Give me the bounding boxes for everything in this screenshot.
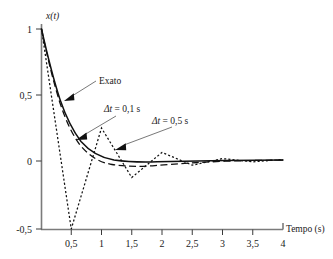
series-dt-0-5-curve xyxy=(42,29,284,229)
dt-0-5-leader-line xyxy=(124,127,172,145)
y-tick-label-0-5: 0,5 xyxy=(20,90,33,101)
dt-0-5-arrowhead xyxy=(115,143,126,150)
x-tick-label-1: 1 xyxy=(99,238,104,249)
chart-figure: 1 0,5 0 -0,5 0,5 1 1,5 2 2,5 3 3,5 4 x(t… xyxy=(0,0,333,259)
x-tick-label-0-5: 0,5 xyxy=(65,238,78,249)
x-tick-label-2-5: 2,5 xyxy=(186,238,199,249)
x-tick-label-3-5: 3,5 xyxy=(247,238,260,249)
dt-0-5-annotation-label: Δt = 0,5 s xyxy=(151,116,189,126)
dt-0-1-annotation-label: Δt = 0,1 s xyxy=(103,104,141,114)
x-tick-label-4: 4 xyxy=(281,238,286,249)
x-axis-title: Tempo (s) xyxy=(286,224,325,235)
response-plot-svg: 1 0,5 0 -0,5 0,5 1 1,5 2 2,5 3 3,5 4 x(t… xyxy=(0,0,333,259)
y-tick-label-1: 1 xyxy=(27,24,32,35)
y-tick-label-0: 0 xyxy=(27,156,32,167)
x-tick-label-3: 3 xyxy=(220,238,225,249)
exato-leader-line xyxy=(71,81,97,97)
x-tick-label-2: 2 xyxy=(160,238,165,249)
series-dt-0-1-curve xyxy=(42,29,284,166)
y-axis-title: x(t) xyxy=(45,11,59,22)
exato-arrowhead xyxy=(64,93,74,101)
y-tick-label-minus-0-5: -0,5 xyxy=(16,224,32,235)
x-tick-label-1-5: 1,5 xyxy=(126,238,139,249)
exato-annotation-label: Exato xyxy=(99,76,121,86)
